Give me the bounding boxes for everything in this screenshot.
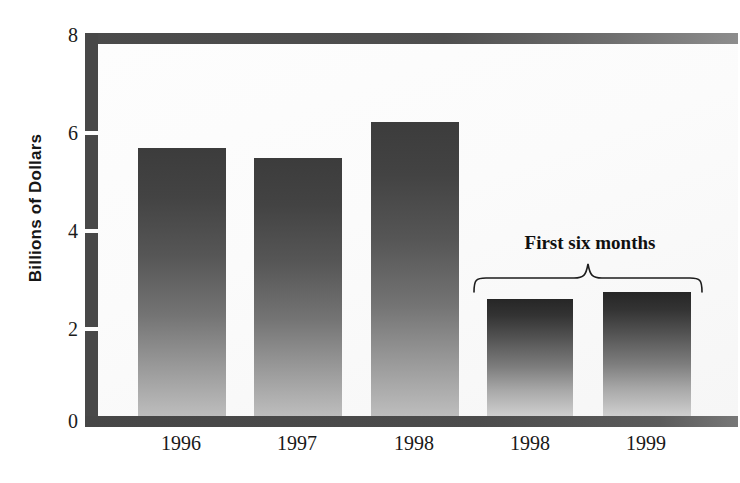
x-tick-label-1996: 1996 [136,433,226,453]
bar-1998 [371,122,459,416]
y-tick-mark-2 [85,327,98,331]
bar-1996 [138,148,226,416]
annotation-label-first-six-months: First six months [470,232,710,254]
bar-1997 [254,158,342,416]
y-tick-mark-4 [85,229,98,233]
y-tick-mark-6 [85,131,98,135]
y-axis-tick-labels: 8 6 4 2 0 [44,0,78,483]
bar-chart-figure: 8 6 4 2 0 Billions of Dollars 1996 1997 … [0,0,740,483]
bar-1999-first-six-months [603,292,691,416]
annotation-brace-icon [470,258,710,294]
x-axis-line [85,416,738,427]
x-tick-label-1997: 1997 [252,433,342,453]
y-tick-label-6: 6 [50,123,78,143]
y-tick-label-4: 4 [50,221,78,241]
y-tick-label-2: 2 [50,319,78,339]
bar-1998-first-six-months [487,299,573,416]
y-tick-label-0: 0 [50,411,78,431]
x-tick-label-1998: 1998 [369,433,459,453]
x-tick-label-1999-six-months: 1999 [601,433,691,453]
x-tick-label-1998-six-months: 1998 [485,433,575,453]
y-axis-title: Billions of Dollars [26,108,46,308]
y-tick-label-8: 8 [50,25,78,45]
axis-top-rule [85,33,738,44]
